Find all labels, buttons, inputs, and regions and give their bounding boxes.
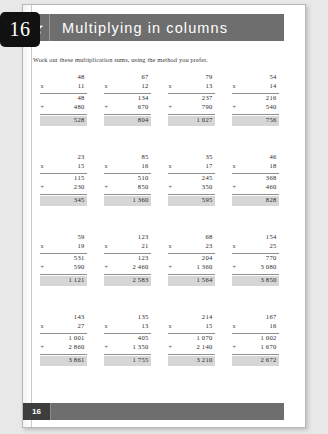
multiplication-problem: 68x23204+1 3601 564	[159, 230, 223, 310]
answer-box[interactable]: 1 564	[168, 276, 215, 286]
divider-line	[232, 114, 279, 115]
multiplication-problem: 135x13405+1 3501 755	[95, 310, 159, 390]
answer-box[interactable]: 804	[104, 116, 151, 126]
answer-box[interactable]: 2 672	[232, 356, 279, 366]
sum-row: +1 670	[232, 344, 279, 353]
sum-row: +850	[104, 184, 151, 193]
sum-row: x23	[168, 243, 215, 252]
multiply-operator: x	[104, 323, 108, 329]
divider-line	[168, 194, 215, 195]
sum-row: +790	[168, 104, 215, 113]
multiplier: 19	[77, 243, 84, 250]
multiplication-problem: 143x271 001+2 8603 861	[31, 310, 95, 390]
partial-product-2: 2 460	[132, 264, 148, 271]
partial-product-1: 770	[266, 255, 277, 262]
answer-box[interactable]: 1 360	[104, 196, 151, 206]
answer-box[interactable]: 595	[168, 196, 215, 206]
chapter-number-tab: 16	[0, 12, 40, 47]
answer-box[interactable]: 3 210	[168, 356, 215, 366]
sum-row: x25	[232, 243, 279, 252]
multiply-operator: x	[40, 163, 44, 169]
multiplicand: 54	[269, 74, 276, 81]
sum-row: x27	[40, 323, 87, 332]
multiplier: 23	[205, 243, 212, 250]
partial-product-2: 230	[74, 184, 85, 191]
sum-row: x12	[104, 83, 151, 92]
divider-line	[104, 114, 151, 115]
multiplication-problem: 154x25770+3 0803 850	[223, 230, 287, 310]
divider-line	[232, 354, 279, 355]
sum-block: 135x13405+1 3501 755	[104, 314, 151, 366]
sum-block: 23x15115+230345	[40, 154, 87, 206]
multiply-operator: x	[104, 163, 108, 169]
divider-line	[40, 194, 87, 195]
multiply-operator: x	[168, 243, 172, 249]
sum-block: 67x12134+670804	[104, 74, 151, 126]
answer-box[interactable]: 3 861	[40, 356, 87, 366]
answer-box[interactable]: 828	[232, 196, 279, 206]
sum-row: +540	[232, 104, 279, 113]
multiplication-problem: 67x12134+670804	[95, 70, 159, 150]
partial-product-1: 531	[74, 255, 85, 262]
partial-product-2: 3 080	[260, 264, 276, 271]
multiplicand: 123	[138, 234, 149, 241]
divider-line	[232, 274, 279, 275]
divider-line	[168, 114, 215, 115]
sum-row: x13	[104, 323, 151, 332]
answer-box[interactable]: 345	[40, 196, 87, 206]
sum-row: +480	[40, 104, 87, 113]
partial-product-2: 2 140	[196, 344, 212, 351]
multiplier: 12	[141, 83, 148, 90]
partial-product-1: 123	[138, 255, 149, 262]
multiplication-problem: 54x14216+540756	[223, 70, 287, 150]
sum-block: 79x13237+7901 027	[168, 74, 215, 126]
sum-block: 68x23204+1 3601 564	[168, 234, 215, 286]
plus-operator: +	[40, 184, 45, 190]
answer-box[interactable]: 3 850	[232, 276, 279, 286]
instruction-text: Work out these multiplication sums, usin…	[33, 56, 283, 63]
multiplicand: 23	[77, 154, 84, 161]
divider-line	[168, 274, 215, 275]
divider-line	[104, 274, 151, 275]
divider-line	[104, 194, 151, 195]
multiplicand: 167	[266, 314, 277, 321]
sum-row: +590	[40, 264, 87, 273]
multiply-operator: x	[40, 243, 44, 249]
sum-block: 46x18368+460828	[232, 154, 279, 206]
multiplicand: 59	[77, 234, 84, 241]
multiply-operator: x	[168, 83, 172, 89]
answer-box[interactable]: 1 027	[168, 116, 215, 126]
multiplier: 13	[141, 323, 148, 330]
multiplier: 15	[77, 163, 84, 170]
partial-product-1: 368	[266, 175, 277, 182]
problem-grid: 48x1148+48052867x12134+67080479x13237+79…	[31, 70, 287, 390]
sum-block: 85x16510+8501 360	[104, 154, 151, 206]
answer-box[interactable]: 1 755	[104, 356, 151, 366]
sum-block: 167x161 002+1 6702 672	[232, 314, 279, 366]
answer-box[interactable]: 1 121	[40, 276, 87, 286]
answer-box[interactable]: 756	[232, 116, 279, 126]
plus-operator: +	[40, 344, 45, 350]
answer-box[interactable]: 2 583	[104, 276, 151, 286]
multiplicand: 48	[77, 74, 84, 81]
multiplication-problem: 35x17245+350595	[159, 150, 223, 230]
partial-product-2: 670	[138, 104, 149, 111]
partial-product-1: 510	[138, 175, 149, 182]
multiplier: 15	[205, 323, 212, 330]
divider-line	[104, 354, 151, 355]
sum-row: +2 140	[168, 344, 215, 353]
partial-product-1: 48	[77, 95, 84, 102]
answer-box[interactable]: 528	[40, 116, 87, 126]
sum-row: x15	[168, 323, 215, 332]
multiplication-problem: 167x161 002+1 6702 672	[223, 310, 287, 390]
partial-product-2: 1 350	[132, 344, 148, 351]
partial-product-2: 540	[266, 104, 277, 111]
sum-block: 143x271 001+2 8603 861	[40, 314, 87, 366]
multiplication-problem: 46x18368+460828	[223, 150, 287, 230]
partial-product-1: 237	[202, 95, 213, 102]
sum-row: x14	[232, 83, 279, 92]
partial-product-1: 1 070	[196, 335, 212, 342]
plus-operator: +	[232, 184, 237, 190]
sum-row: +1 360	[168, 264, 215, 273]
plus-operator: +	[168, 344, 173, 350]
